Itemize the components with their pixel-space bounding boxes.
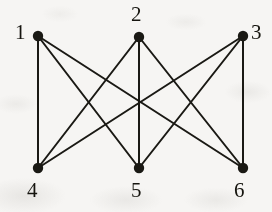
graph-node-label-1: 1: [15, 22, 26, 43]
edge-layer: [38, 36, 243, 168]
graph-node-label-3: 3: [251, 22, 262, 43]
graph-node-5: [134, 163, 144, 173]
graph-node-1: [33, 31, 43, 41]
graph-figure: 123456: [0, 0, 272, 212]
graph-node-4: [33, 163, 43, 173]
graph-node-2: [134, 32, 144, 42]
graph-node-label-4: 4: [27, 180, 38, 201]
graph-node-label-5: 5: [131, 180, 142, 201]
graph-node-3: [238, 31, 248, 41]
graph-node-6: [238, 163, 248, 173]
graph-node-label-2: 2: [131, 4, 142, 25]
graph-node-label-6: 6: [234, 180, 245, 201]
